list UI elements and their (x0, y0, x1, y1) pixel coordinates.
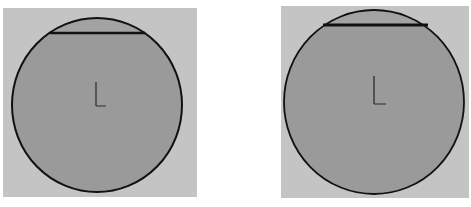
diagram-canvas (0, 0, 471, 207)
left-panel (0, 0, 200, 197)
right-panel (270, 0, 471, 198)
